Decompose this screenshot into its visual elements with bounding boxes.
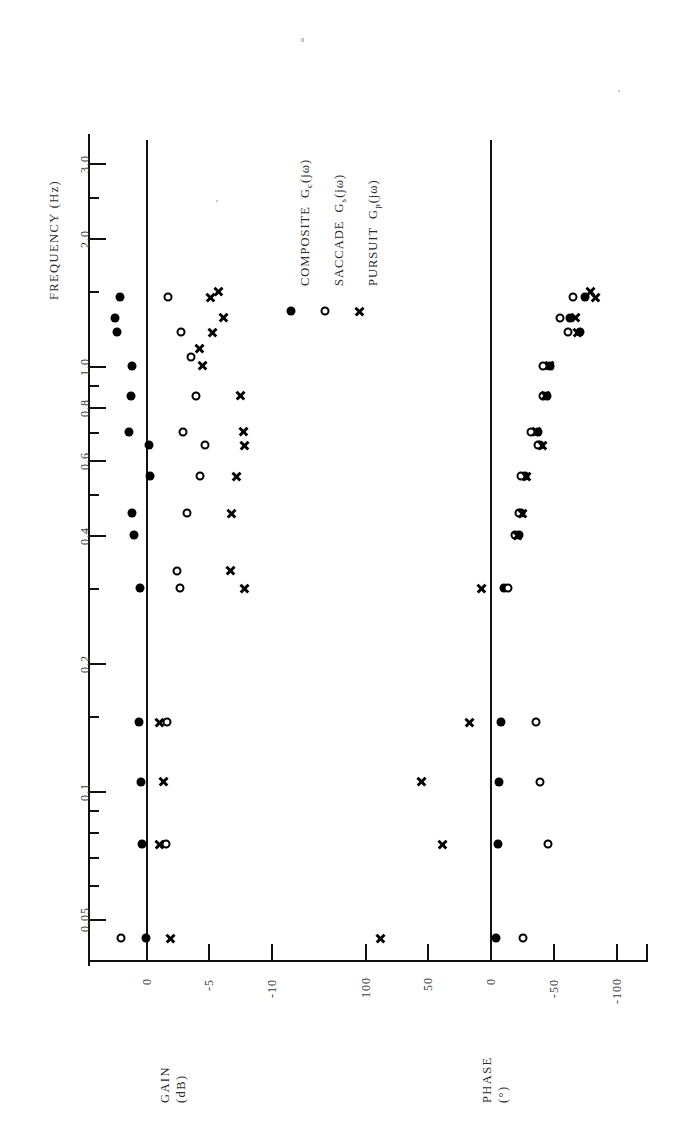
frequency-tick-label: 3.0: [78, 155, 93, 173]
value-axis-right-cap: [646, 944, 648, 962]
legend-arg-pursuit: (jω): [366, 179, 380, 203]
gain-zero-reference-line: [146, 140, 148, 960]
data-point-saccade: [536, 777, 545, 786]
scan-speck: [301, 38, 304, 42]
frequency-tick-label: 2.0: [78, 230, 93, 248]
gain-axis-tick: [208, 944, 210, 961]
data-point-pursuit: [154, 717, 165, 728]
frequency-minor-tick: [90, 857, 99, 859]
legend-subscript-composite: c: [304, 183, 314, 188]
frequency-axis-spine: [88, 134, 90, 966]
data-point-composite: [127, 391, 136, 400]
data-point-composite: [134, 718, 143, 727]
data-point-composite: [129, 531, 138, 540]
frequency-minor-tick: [90, 810, 99, 812]
data-point-composite: [128, 509, 137, 518]
data-point-pursuit: [517, 508, 528, 519]
data-point-composite: [494, 777, 503, 786]
data-point-saccade: [503, 584, 512, 593]
data-point-pursuit: [218, 312, 229, 323]
frequency-minor-tick: [90, 385, 99, 387]
data-point-pursuit: [226, 508, 237, 519]
data-point-saccade: [518, 934, 527, 943]
data-point-saccade: [200, 441, 209, 450]
legend-arg-composite: (jω): [298, 159, 312, 183]
bode-plot-figure: COMPOSITE Gc(jω) SACCADE Gs(jω) PURSUIT …: [0, 0, 676, 1148]
frequency-tick-label: 1.0: [78, 358, 93, 376]
phase-axis-tick: [553, 944, 555, 961]
phase-axis-tick: [427, 944, 429, 961]
data-point-pursuit: [165, 933, 176, 944]
data-point-pursuit: [531, 426, 542, 437]
data-point-saccade: [179, 427, 188, 436]
frequency-tick-label: 0.05: [78, 907, 93, 932]
data-point-composite: [110, 313, 119, 322]
data-point-saccade: [568, 293, 577, 302]
legend-text-saccade: SACCADE: [332, 221, 346, 286]
data-point-composite: [115, 293, 124, 302]
data-point-composite: [113, 328, 122, 337]
frequency-tick-label: 0.6: [78, 452, 93, 470]
data-point-composite: [497, 718, 506, 727]
data-point-composite: [144, 441, 153, 450]
data-point-pursuit: [239, 440, 250, 451]
data-point-pursuit: [154, 839, 165, 850]
phase-axis-tick: [616, 944, 618, 961]
data-point-pursuit: [375, 933, 386, 944]
scan-speck: [618, 90, 620, 92]
phase-zero-reference-line: [490, 140, 492, 960]
data-point-pursuit: [235, 390, 246, 401]
frequency-tick-label: 0.8: [78, 399, 93, 417]
phase-tick-label: 0: [484, 978, 499, 985]
legend-symbol-saccade: G: [332, 202, 346, 212]
frequency-minor-tick: [90, 494, 99, 496]
data-point-pursuit: [537, 440, 548, 451]
data-point-pursuit: [197, 360, 208, 371]
frequency-minor-tick: [90, 885, 99, 887]
phase-axis-title-line-1: (°): [496, 1085, 511, 1103]
open-circle-marker: [321, 307, 330, 316]
data-point-pursuit: [239, 583, 250, 594]
gain-axis-tick: [146, 944, 148, 961]
data-point-saccade: [173, 566, 182, 575]
legend-arg-saccade: (jω): [332, 174, 346, 198]
gain-axis-tick: [271, 944, 273, 961]
data-point-saccade: [175, 584, 184, 593]
frequency-minor-tick: [90, 291, 99, 293]
data-point-composite: [142, 934, 151, 943]
legend-text-pursuit: PURSUIT: [366, 227, 380, 286]
data-point-saccade: [191, 391, 200, 400]
data-point-pursuit: [464, 717, 475, 728]
legend-subscript-saccade: s: [338, 198, 348, 203]
data-point-pursuit: [194, 343, 205, 354]
legend-symbol-composite: G: [298, 188, 312, 198]
data-point-pursuit: [476, 583, 487, 594]
data-point-pursuit: [540, 390, 551, 401]
data-point-pursuit: [512, 530, 523, 541]
data-point-pursuit: [158, 776, 169, 787]
data-point-saccade: [563, 328, 572, 337]
gain-tick-label: 0: [140, 978, 155, 985]
data-point-composite: [124, 427, 133, 436]
data-point-pursuit: [225, 565, 236, 576]
phase-axis-tick: [365, 944, 367, 961]
data-point-pursuit: [521, 471, 532, 482]
data-point-pursuit: [416, 776, 427, 787]
legend-label-pursuit: PURSUIT Gp(jω): [366, 179, 381, 286]
legend-label-composite: COMPOSITE Gc(jω): [298, 159, 313, 286]
legend-symbol-pursuit: G: [366, 209, 380, 219]
phase-tick-label: -50: [547, 979, 562, 998]
data-point-saccade: [532, 718, 541, 727]
data-point-composite: [138, 840, 147, 849]
data-point-saccade: [556, 313, 565, 322]
value-axis-spine: [88, 960, 648, 962]
phase-tick-label: -100: [610, 978, 625, 1004]
data-point-pursuit: [213, 286, 224, 297]
legend-subscript-pursuit: p: [372, 203, 382, 209]
data-point-pursuit: [570, 312, 581, 323]
phase-axis-title-line-0: PHASE: [480, 1056, 495, 1103]
legend-label-saccade: SACCADE Gs(jω): [332, 174, 347, 286]
phase-axis-tick: [490, 944, 492, 961]
frequency-minor-tick: [90, 197, 99, 199]
data-point-composite: [137, 777, 146, 786]
